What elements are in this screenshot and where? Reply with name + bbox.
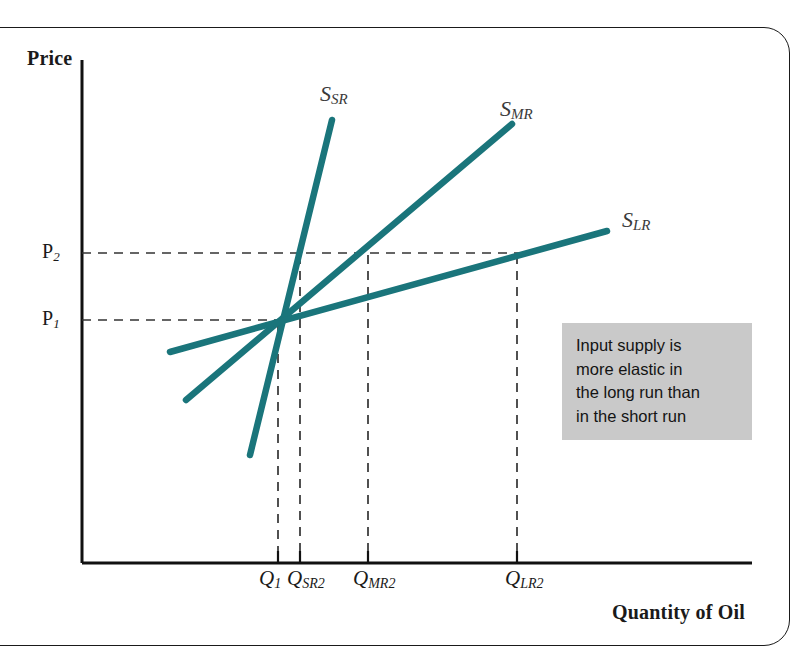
y-tick-p2-sub: 2 (53, 249, 60, 264)
x-tick-qsr2-base: Q (287, 566, 302, 590)
x-tick-qmr2-base: Q (353, 566, 368, 590)
curve-label-lr-base: S (622, 207, 633, 232)
x-tick-q1-sub: 1 (274, 576, 281, 591)
supply-curves (170, 120, 607, 455)
curve-label-sr-base: S (320, 81, 331, 106)
x-axis-ticks (278, 551, 517, 563)
curve-label-lr-sub: LR (633, 217, 651, 233)
curve-label-short-run: SSR (320, 81, 348, 108)
curve-medium-run (186, 124, 512, 400)
y-axis-title: Price (27, 47, 72, 70)
y-tick-p1-sub: 1 (53, 316, 60, 331)
x-axis-title: Quantity of Oil (612, 601, 745, 624)
curve-label-mr-base: S (500, 96, 511, 121)
x-tick-q1-base: Q (259, 566, 274, 590)
x-tick-qlr2-sub: LR2 (520, 576, 543, 591)
annotation-box: Input supply is more elastic in the long… (562, 323, 752, 440)
figure-card: Price Quantity of Oil P2 P1 Q1 QSR2 QMR2… (0, 0, 808, 658)
x-tick-qlr2-base: Q (505, 566, 520, 590)
x-tick-label-qmr2: QMR2 (353, 566, 395, 592)
x-tick-label-q1: Q1 (259, 566, 281, 592)
x-tick-label-qsr2: QSR2 (287, 566, 325, 592)
x-tick-label-qlr2: QLR2 (505, 566, 544, 592)
curve-label-mr-sub: MR (511, 106, 533, 122)
y-tick-label-p2: P2 (42, 240, 60, 265)
axis-lines (82, 60, 752, 563)
curve-label-long-run: SLR (622, 207, 651, 234)
annotation-text: Input supply is more elastic in the long… (576, 334, 748, 428)
curve-label-medium-run: SMR (500, 96, 533, 123)
curve-long-run (170, 231, 607, 352)
x-tick-qmr2-sub: MR2 (368, 576, 395, 591)
y-tick-label-p1: P1 (42, 307, 60, 332)
x-tick-qsr2-sub: SR2 (302, 576, 325, 591)
y-tick-p1-base: P (42, 307, 53, 329)
y-tick-p2-base: P (42, 240, 53, 262)
curve-label-sr-sub: SR (331, 91, 348, 107)
